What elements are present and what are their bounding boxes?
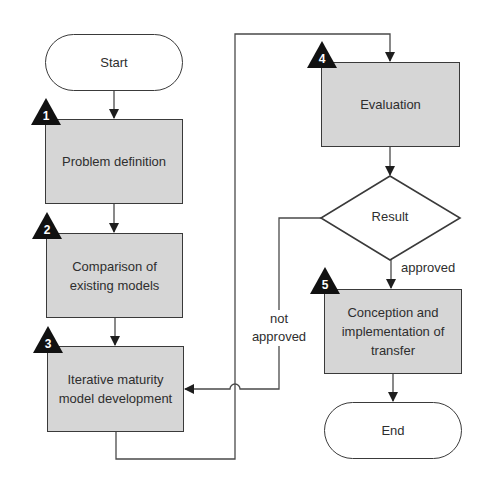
start-label: Start (100, 53, 127, 72)
step-1-label: Problem definition (62, 152, 166, 171)
step-4-label: Evaluation (360, 95, 421, 114)
step-1-badge: 1 (31, 98, 61, 125)
start-terminal: Start (45, 34, 183, 91)
end-terminal: End (324, 402, 462, 459)
approved-label: approved (401, 259, 463, 277)
decision-label: Result (350, 209, 430, 224)
step-2-label-line2: existing models (70, 276, 160, 295)
step-2-comparison: Comparison of existing models (46, 233, 183, 318)
step-2-badge: 2 (32, 212, 62, 239)
step-1-problem-definition: Problem definition (45, 119, 183, 204)
step-3-label-line1: Iterative maturity (59, 370, 172, 389)
step-3-iterative-development: Iterative maturity model development (47, 346, 184, 432)
step-4-evaluation: Evaluation (321, 62, 460, 147)
end-label: End (381, 421, 404, 440)
step-3-badge: 3 (33, 326, 63, 353)
step-5-badge: 5 (310, 267, 340, 294)
step-5-conception-transfer: Conception and implementation of transfe… (324, 289, 462, 374)
step-2-label-line1: Comparison of (70, 257, 160, 276)
step-5-label-line1: Conception and (342, 303, 445, 322)
step-5-label-line3: transfer (342, 341, 445, 360)
not-approved-label: not approved (248, 310, 310, 346)
step-3-label-line2: model development (59, 389, 172, 408)
step-5-label-line2: implementation of (342, 322, 445, 341)
step-4-badge: 4 (307, 41, 337, 68)
